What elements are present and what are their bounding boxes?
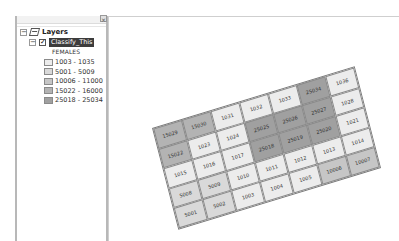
legend-item: 10006 - 11000 — [44, 77, 103, 85]
legend-label: 5001 - 5009 — [55, 68, 95, 76]
layer-name-selected[interactable]: Classify_This — [49, 38, 94, 47]
legend-swatch[interactable] — [44, 87, 53, 94]
legend-label: 25018 - 25034 — [55, 96, 103, 104]
close-icon[interactable]: × — [100, 15, 107, 22]
legend-swatch[interactable] — [44, 68, 53, 75]
legend-field-row: FEMALES — [52, 48, 80, 55]
legend-item: 5001 - 5009 — [44, 68, 95, 76]
tree-node-layer[interactable]: − ✓ Classify_This — [29, 38, 94, 47]
legend-swatch[interactable] — [44, 78, 53, 85]
toc-titlebar[interactable] — [17, 16, 106, 24]
table-of-contents-panel: × − Layers − ✓ Classify_This FEMALES 100… — [15, 16, 108, 241]
legend-swatch[interactable] — [44, 59, 53, 66]
divider — [17, 26, 106, 27]
tree-node-layers[interactable]: − Layers — [20, 28, 68, 36]
layer-visibility-checkbox[interactable]: ✓ — [39, 39, 46, 46]
collapse-icon[interactable]: − — [20, 29, 27, 36]
legend-field-name: FEMALES — [52, 48, 80, 55]
layers-icon — [29, 28, 40, 36]
collapse-icon[interactable]: − — [29, 39, 36, 46]
legend-item: 15022 - 16000 — [44, 87, 103, 95]
legend-label: 15022 - 16000 — [55, 87, 103, 95]
legend-swatch[interactable] — [44, 97, 53, 104]
legend-label: 10006 - 11000 — [55, 77, 103, 85]
legend-item: 25018 - 25034 — [44, 96, 103, 104]
layers-label: Layers — [42, 28, 68, 36]
legend-label: 1003 - 1035 — [55, 58, 95, 66]
legend-item: 1003 - 1035 — [44, 58, 95, 66]
